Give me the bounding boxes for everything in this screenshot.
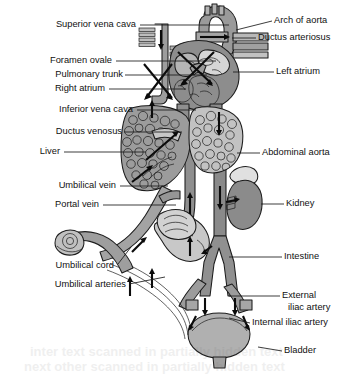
label-foramen-ovale: Foramen ovale [50, 55, 112, 65]
label-inferior-vena-cava: Inferior vena cava [59, 104, 134, 114]
label-superior-vena-cava: Superior vena cava [56, 19, 137, 29]
label-abdominal-aorta: Abdominal aorta [262, 147, 331, 157]
label-umbilical-arteries: Umbilical arteries [55, 279, 127, 289]
label-left-atrium: Left atrium [276, 66, 320, 76]
bleed-line-2: next other scanned in partially hidden t… [24, 359, 285, 374]
label-bladder: Bladder [284, 345, 316, 355]
page-bleed-artifact: inter text scanned in partially hidden t… [24, 344, 285, 374]
label-portal-vein: Portal vein [55, 199, 99, 209]
label-umbilical-vein: Umbilical vein [59, 180, 116, 190]
label-external-iliac-artery: External [282, 290, 316, 300]
label-internal-iliac-artery: Internal iliac artery [252, 317, 328, 327]
label-ductus-venosus: Ductus venosus [56, 126, 122, 136]
label-external-iliac-artery-line2: iliac artery [288, 302, 331, 312]
fetal-circulation-figure: inter text scanned in partially hidden t… [0, 0, 343, 376]
label-ductus-arteriosus: Ductus arteriosus [258, 32, 331, 42]
label-pulmonary-trunk: Pulmonary trunk [55, 69, 123, 79]
label-liver: Liver [40, 146, 60, 156]
bleed-line-1: inter text scanned in partially hidden t… [30, 344, 284, 359]
label-right-atrium: Right atrium [55, 83, 105, 93]
label-intestine: Intestine [284, 251, 319, 261]
kidney-organ [227, 167, 262, 230]
label-arch-of-aorta: Arch of aorta [274, 15, 328, 25]
label-umbilical-cord: Umbilical cord [56, 260, 114, 270]
diagram-canvas: inter text scanned in partially hidden t… [0, 0, 343, 376]
label-kidney: Kidney [286, 198, 315, 208]
